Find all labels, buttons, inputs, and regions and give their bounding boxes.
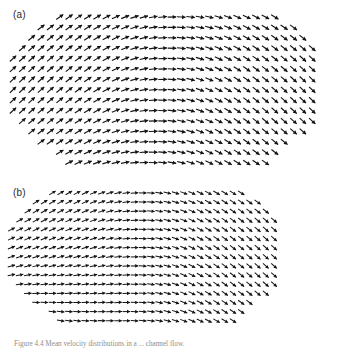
figure-root: (a) (b) Figure 4.4 Mean velocity distrib…: [0, 0, 341, 355]
figure-caption: Figure 4.4 Mean velocity distributions i…: [14, 340, 335, 353]
panel-b: (b): [0, 178, 341, 333]
quiver-plot-a: [0, 0, 341, 178]
quiver-plot-b: [0, 178, 341, 333]
panel-a: (a): [0, 0, 341, 178]
